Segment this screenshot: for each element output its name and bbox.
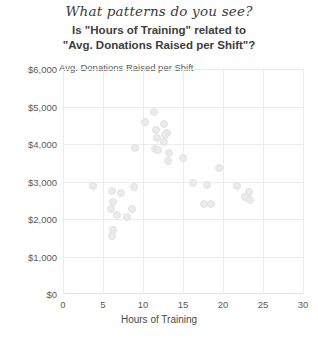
data-point (108, 187, 116, 195)
x-tick-label: 20 (218, 299, 229, 310)
x-tick-label: 10 (138, 299, 149, 310)
gridline-horizontal (63, 144, 303, 145)
y-tick-label: $6,000 (5, 64, 57, 75)
data-point (128, 205, 136, 213)
data-point (189, 179, 197, 187)
data-point (160, 120, 168, 128)
x-tick-label: 15 (178, 299, 189, 310)
gridline-vertical (303, 69, 304, 294)
gridline-horizontal (63, 69, 303, 70)
data-point (108, 232, 116, 240)
x-tick-label: 25 (258, 299, 269, 310)
plot-area (63, 69, 303, 294)
scatter-chart: Avg. Donations Raised per Shift $0$1,000… (0, 56, 318, 343)
data-point (246, 196, 254, 204)
data-point (203, 181, 211, 189)
x-axis-tick-labels: 051015202530 (63, 299, 303, 313)
data-point (141, 118, 149, 126)
x-tick-label: 0 (60, 299, 65, 310)
chart-subtitle-line-2: "Avg. Donations Raised per Shift"? (0, 38, 318, 53)
y-tick-label: $2,000 (5, 214, 57, 225)
data-point (89, 182, 97, 190)
data-point (131, 144, 139, 152)
data-point (130, 183, 138, 191)
gridline-horizontal (63, 257, 303, 258)
data-point (154, 146, 162, 154)
data-point (150, 108, 158, 116)
gridline-horizontal (63, 107, 303, 108)
y-tick-label: $5,000 (5, 101, 57, 112)
data-point (160, 138, 168, 146)
data-point (207, 200, 215, 208)
data-point (179, 154, 187, 162)
x-axis-title: Hours of Training (0, 314, 318, 325)
data-point (233, 182, 241, 190)
data-point (152, 126, 160, 134)
y-tick-label: $3,000 (5, 176, 57, 187)
data-point (164, 157, 172, 165)
x-tick-label: 5 (100, 299, 105, 310)
y-tick-label: $0 (5, 289, 57, 300)
data-point (113, 211, 121, 219)
data-point (215, 164, 223, 172)
y-axis-tick-labels: $0$1,000$2,000$3,000$4,000$5,000$6,000 (0, 69, 57, 294)
y-tick-label: $1,000 (5, 251, 57, 262)
chart-subtitle-line-1: Is "Hours of Training" related to (0, 23, 318, 38)
x-tick-label: 30 (298, 299, 309, 310)
y-tick-label: $4,000 (5, 139, 57, 150)
chart-subtitle: Is "Hours of Training" related to "Avg. … (0, 23, 318, 52)
gridline-horizontal (63, 182, 303, 183)
data-point (117, 189, 125, 197)
gridline-horizontal (63, 219, 303, 220)
header-title: What patterns do you see? (0, 3, 318, 19)
